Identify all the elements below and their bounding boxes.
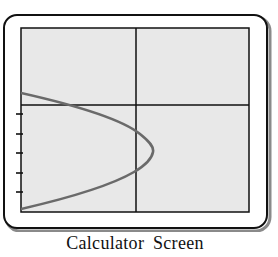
figure-caption: Calculator Screen xyxy=(0,233,270,254)
calculator-screen-figure: Calculator Screen xyxy=(0,0,278,257)
calculator-display xyxy=(21,28,249,212)
calculator-graph xyxy=(0,0,278,232)
